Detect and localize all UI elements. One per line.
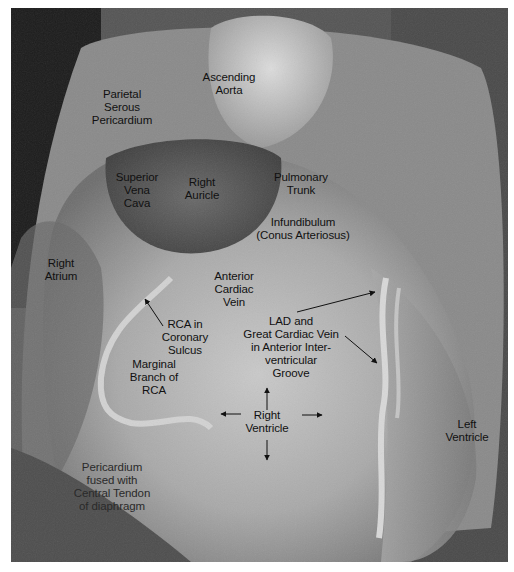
label-right-atrium: Right Atrium bbox=[38, 257, 84, 283]
label-right-auricle: Right Auricle bbox=[177, 176, 227, 202]
label-infundibulum: Infundibulum (Conus Arteriosus) bbox=[249, 216, 357, 242]
label-anterior-cardiac-vein: Anterior Cardiac Vein bbox=[207, 270, 261, 309]
label-pericardium-diaphragm: Pericardium fused with Central Tendon of… bbox=[64, 461, 160, 513]
label-pulmonary-trunk: Pulmonary Trunk bbox=[269, 171, 333, 197]
label-left-ventricle: Left Ventricle bbox=[441, 418, 493, 444]
label-right-ventricle: Right Ventricle bbox=[239, 409, 295, 435]
label-lad-great-cardiac-vein: LAD and Great Cardiac Vein in Anterior I… bbox=[236, 315, 346, 380]
label-superior-vena-cava: Superior Vena Cava bbox=[107, 171, 167, 210]
label-marginal-branch-rca: Marginal Branch of RCA bbox=[124, 358, 184, 397]
label-ascending-aorta: Ascending Aorta bbox=[199, 71, 259, 97]
label-parietal-serous-pericardium: Parietal Serous Pericardium bbox=[82, 88, 162, 127]
label-rca-coronary-sulcus: RCA in Coronary Sulcus bbox=[157, 318, 213, 357]
heart-photograph: Ascending Aorta Parietal Serous Pericard… bbox=[11, 8, 508, 562]
